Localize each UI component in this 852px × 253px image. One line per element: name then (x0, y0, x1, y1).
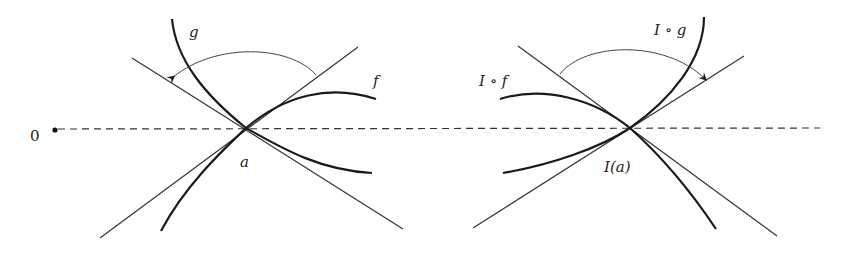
tangent-line-f (100, 47, 358, 238)
right-panel: I ∘ g I ∘ f I(a) (473, 17, 777, 236)
tangent-line-g (132, 58, 403, 229)
label-f: f (372, 72, 381, 90)
curve-f (246, 92, 376, 173)
angle-arc (560, 50, 704, 78)
origin-point (52, 127, 57, 132)
label-I-of-f: I ∘ f (478, 72, 510, 90)
label-g: g (189, 23, 199, 41)
curve-g (161, 19, 246, 231)
origin-label: 0 (30, 127, 40, 145)
tangent-line-If (518, 46, 777, 236)
inversion-diagram: 0 g f a I ∘ g I ∘ f I(a) (0, 0, 852, 253)
baseline-ray (58, 128, 820, 129)
label-I-of-g: I ∘ g (653, 21, 686, 39)
curve-I-of-g (630, 17, 716, 229)
label-I-of-a: I(a) (603, 158, 631, 176)
label-a: a (240, 153, 249, 171)
tangent-line-Ig (473, 56, 744, 228)
